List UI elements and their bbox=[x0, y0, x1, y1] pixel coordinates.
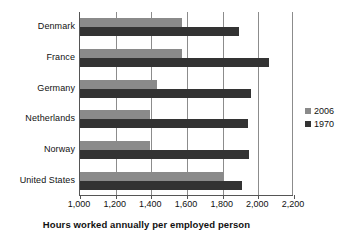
gridline bbox=[116, 12, 117, 195]
bar-france-1970 bbox=[80, 58, 269, 67]
bar-chart: DenmarkFranceGermanyNetherlandsNorwayUni… bbox=[0, 0, 360, 239]
bar-netherlands-2006 bbox=[80, 110, 150, 119]
category-axis-tick bbox=[79, 102, 80, 106]
category-label-norway: Norway bbox=[44, 144, 75, 154]
category-axis-tick bbox=[79, 41, 80, 45]
legend-swatch-2006 bbox=[305, 108, 311, 114]
x-tick-label: 2,200 bbox=[282, 199, 305, 209]
category-label-denmark: Denmark bbox=[38, 21, 75, 31]
category-label-france: France bbox=[46, 52, 75, 62]
bar-france-2006 bbox=[80, 49, 182, 58]
gridline bbox=[223, 12, 224, 195]
legend-item-1970[interactable]: 1970 bbox=[305, 117, 334, 130]
chart-legend: 20061970 bbox=[305, 104, 334, 130]
gridline bbox=[151, 12, 152, 195]
bar-united-states-1970 bbox=[80, 181, 242, 190]
category-label-united-states: United States bbox=[20, 175, 75, 185]
category-label-netherlands: Netherlands bbox=[25, 113, 75, 123]
legend-swatch-1970 bbox=[305, 121, 311, 127]
bar-norway-1970 bbox=[80, 150, 249, 159]
legend-label: 1970 bbox=[314, 119, 334, 129]
bar-netherlands-1970 bbox=[80, 119, 248, 128]
x-tick-label: 1,600 bbox=[175, 199, 198, 209]
x-axis-title: Hours worked annually per employed perso… bbox=[0, 219, 293, 230]
gridline bbox=[187, 12, 188, 195]
x-tick-label: 2,000 bbox=[246, 199, 269, 209]
category-axis-tick bbox=[79, 133, 80, 137]
legend-item-2006[interactable]: 2006 bbox=[305, 104, 334, 117]
value-axis-tick-labels: 1,0001,2001,4001,6001,8002,0002,200 bbox=[0, 199, 360, 213]
bar-norway-2006 bbox=[80, 141, 150, 150]
x-tick-label: 1,000 bbox=[68, 199, 91, 209]
bar-germany-1970 bbox=[80, 89, 251, 98]
gridline bbox=[258, 12, 259, 195]
x-tick-label: 1,200 bbox=[103, 199, 126, 209]
x-tick-label: 1,400 bbox=[139, 199, 162, 209]
x-tick-label: 1,800 bbox=[210, 199, 233, 209]
legend-label: 2006 bbox=[314, 106, 334, 116]
bar-denmark-1970 bbox=[80, 27, 239, 36]
bar-denmark-2006 bbox=[80, 18, 182, 27]
bar-germany-2006 bbox=[80, 80, 157, 89]
category-label-germany: Germany bbox=[37, 83, 75, 93]
category-axis-tick bbox=[79, 163, 80, 167]
category-axis-tick bbox=[79, 71, 80, 75]
plot-right-frame bbox=[292, 12, 293, 195]
plot-area bbox=[79, 12, 293, 196]
category-axis-labels: DenmarkFranceGermanyNetherlandsNorwayUni… bbox=[0, 12, 75, 196]
bar-united-states-2006 bbox=[80, 172, 223, 181]
